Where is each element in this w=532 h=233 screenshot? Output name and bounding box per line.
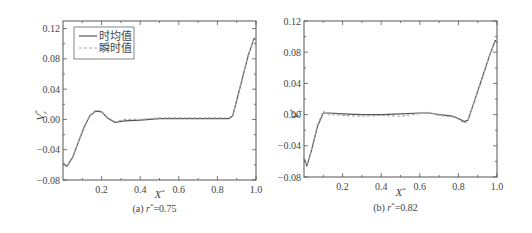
y-axis-title: Vr*	[288, 109, 304, 119]
x-tick-label: 0.6	[414, 181, 427, 192]
y-tick-label: 0.08	[284, 47, 302, 58]
y-tick-label: 0.08	[43, 53, 61, 64]
y-tick-label: −0.08	[278, 172, 301, 183]
y-tick-label: −0.08	[37, 175, 60, 186]
x-tick-label: 0.8	[211, 184, 224, 195]
y-tick-label: 0.12	[284, 16, 302, 27]
x-tick-label: 0.4	[375, 181, 388, 192]
x-tick-label: 0.6	[173, 184, 186, 195]
panel-caption: (b) r*=0.82	[373, 201, 418, 214]
x-tick-label: 0.2	[95, 184, 108, 195]
x-tick-label: 1.0	[250, 184, 263, 195]
figure: 0.20.40.60.81.00.120.080.040.00−0.04−0.0…	[0, 0, 532, 233]
x-tick-label: 0.2	[336, 181, 349, 192]
chart-panel-a: 0.20.40.60.81.00.120.080.040.00−0.04−0.0…	[33, 21, 262, 215]
series-time-averaged	[304, 41, 497, 167]
y-tick-label: 0.04	[43, 84, 61, 95]
x-axis-title: X*	[394, 186, 406, 198]
x-axis-title: X*	[153, 188, 165, 200]
x-tick-label: 1.0	[491, 181, 504, 192]
legend: 时均值瞬时值	[74, 27, 134, 59]
chart-panel-b: 0.20.40.60.81.00.120.080.040.00−0.04−0.0…	[278, 16, 503, 215]
y-tick-label: −0.04	[37, 144, 60, 155]
panel-caption: (a) r*=0.75	[132, 202, 176, 215]
y-tick-label: 0.12	[43, 23, 61, 34]
series-instantaneous	[304, 41, 497, 165]
x-tick-label: 0.8	[452, 181, 465, 192]
x-tick-label: 0.4	[134, 184, 147, 195]
y-tick-label: 0.04	[284, 78, 302, 89]
y-tick-label: −0.04	[278, 140, 301, 151]
legend-label: 瞬时值	[99, 42, 132, 55]
plot-frame	[304, 21, 497, 177]
